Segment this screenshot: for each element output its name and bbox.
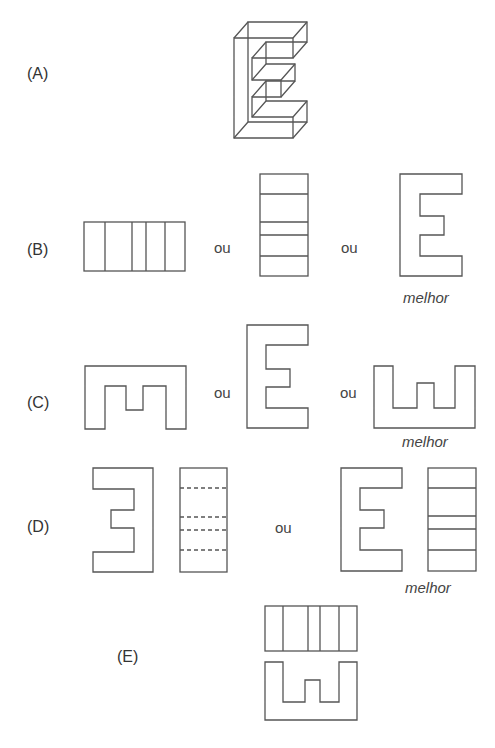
d-option-dashed-row-rectangle bbox=[180, 468, 227, 572]
d-option-e-shape bbox=[341, 468, 402, 571]
b-option-row-rectangle bbox=[260, 174, 308, 276]
c-option-omega-shape bbox=[374, 366, 475, 428]
e-omega-shape bbox=[265, 662, 357, 720]
d-option-row-rectangle bbox=[428, 468, 476, 571]
d-option-mirrored-e-shape bbox=[93, 468, 153, 572]
3d-letter-e-wireframe bbox=[234, 22, 307, 138]
c-option-e-shape bbox=[247, 325, 308, 428]
b-option-e-shape bbox=[400, 174, 462, 276]
c-option-m-shape bbox=[85, 366, 186, 429]
diagram-drawings bbox=[0, 0, 495, 748]
letter-e-orientation-diagram: (A) (B) (C) (D) (E) ou ou ou ou ou melho… bbox=[0, 0, 495, 748]
e-column-rectangle bbox=[265, 606, 357, 651]
b-option-column-rectangle bbox=[84, 222, 185, 271]
